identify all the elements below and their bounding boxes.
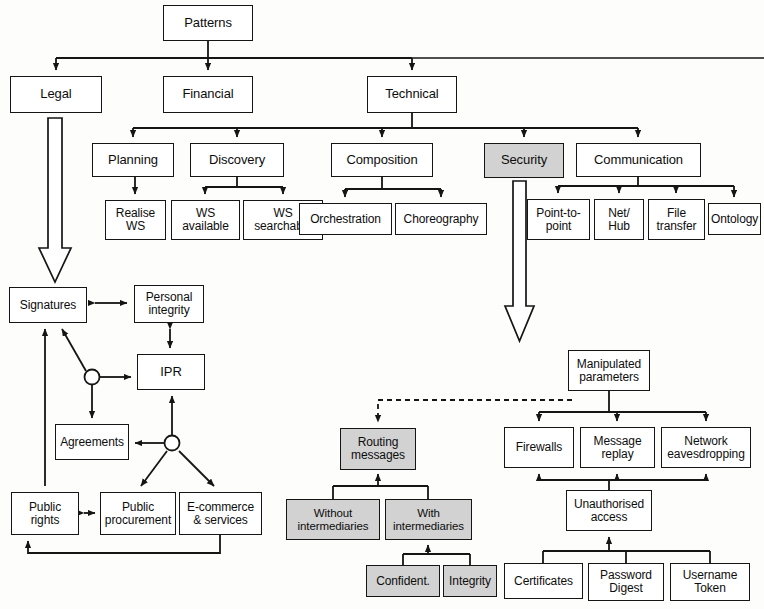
node-label-integrity: Integrity bbox=[446, 575, 494, 588]
node-label-file-transfer: Filetransfer bbox=[651, 207, 702, 233]
node-label-message-replay: Messagereplay bbox=[583, 435, 652, 461]
node-message-replay[interactable]: Messagereplay bbox=[580, 427, 655, 468]
node-point-to-point[interactable]: Point-to-point bbox=[527, 199, 590, 240]
node-orchestration[interactable]: Orchestration bbox=[299, 203, 392, 235]
node-composition[interactable]: Composition bbox=[331, 143, 433, 177]
node-label-ipr: IPR bbox=[140, 365, 202, 379]
node-label-certificates: Certificates bbox=[507, 575, 580, 588]
edge-j2-ecommerce bbox=[179, 451, 214, 486]
node-label-personal-integrity: Personalintegrity bbox=[137, 291, 201, 317]
node-agreements[interactable]: Agreements bbox=[55, 424, 129, 460]
node-label-legal: Legal bbox=[13, 87, 99, 101]
block-arrow-legal bbox=[39, 118, 71, 282]
node-label-composition: Composition bbox=[334, 153, 430, 167]
diagram-canvas: PatternsLegalFinancialTechnicalPlanningD… bbox=[0, 0, 764, 609]
node-firewalls[interactable]: Firewalls bbox=[504, 427, 574, 468]
node-label-confidentiality: Confident. bbox=[369, 575, 437, 588]
node-confidentiality[interactable]: Confident. bbox=[366, 565, 440, 597]
node-label-communication: Communication bbox=[579, 153, 698, 167]
node-label-choreography: Choreography bbox=[398, 213, 484, 226]
node-financial[interactable]: Financial bbox=[163, 76, 253, 113]
node-personal-integrity[interactable]: Personalintegrity bbox=[134, 285, 204, 323]
node-label-signatures: Signatures bbox=[12, 299, 84, 312]
node-network-eavesdropping[interactable]: Networkeavesdropping bbox=[661, 427, 751, 468]
node-ontology[interactable]: Ontology bbox=[708, 203, 761, 235]
node-label-unauthorised-access: Unauthorisedaccess bbox=[569, 498, 649, 524]
node-routing-messages[interactable]: Routingmessages bbox=[340, 428, 416, 470]
node-planning[interactable]: Planning bbox=[92, 143, 174, 177]
node-label-discovery: Discovery bbox=[193, 153, 281, 167]
node-net-hub[interactable]: Net/Hub bbox=[594, 199, 644, 240]
node-with-intermediaries[interactable]: Withintermediaries bbox=[385, 499, 472, 540]
node-label-patterns: Patterns bbox=[166, 16, 250, 30]
node-label-planning: Planning bbox=[95, 153, 171, 167]
node-label-technical: Technical bbox=[370, 87, 454, 101]
node-label-financial: Financial bbox=[166, 87, 250, 101]
node-label-ontology: Ontology bbox=[711, 213, 758, 226]
node-security[interactable]: Security bbox=[484, 143, 564, 178]
node-technical[interactable]: Technical bbox=[367, 76, 457, 113]
node-discovery[interactable]: Discovery bbox=[190, 143, 284, 177]
node-label-ws-available: WSavailable bbox=[174, 207, 237, 233]
edge-j2-procurement bbox=[141, 451, 167, 486]
node-password-digest[interactable]: PasswordDigest bbox=[588, 563, 664, 601]
node-ecommerce-services[interactable]: E-commerce& services bbox=[179, 492, 262, 535]
node-certificates[interactable]: Certificates bbox=[504, 563, 583, 599]
node-label-network-eavesdropping: Networkeavesdropping bbox=[664, 435, 748, 461]
node-label-ecommerce-services: E-commerce& services bbox=[182, 501, 259, 527]
node-file-transfer[interactable]: Filetransfer bbox=[648, 199, 705, 240]
node-manipulated-parameters[interactable]: Manipulatedparameters bbox=[568, 350, 650, 391]
node-label-without-intermediaries: Withoutintermediaries bbox=[289, 507, 377, 532]
node-username-token[interactable]: UsernameToken bbox=[670, 563, 750, 601]
node-realise-ws[interactable]: RealiseWS bbox=[105, 200, 166, 240]
node-public-procurement[interactable]: Publicprocurement bbox=[100, 492, 176, 535]
node-label-orchestration: Orchestration bbox=[302, 213, 389, 226]
node-legal[interactable]: Legal bbox=[10, 76, 102, 113]
node-label-routing-messages: Routingmessages bbox=[343, 436, 413, 462]
node-signatures[interactable]: Signatures bbox=[9, 287, 87, 323]
node-ipr[interactable]: IPR bbox=[137, 354, 205, 390]
node-without-intermediaries[interactable]: Withoutintermediaries bbox=[286, 499, 380, 540]
node-unauthorised-access[interactable]: Unauthorisedaccess bbox=[566, 490, 652, 531]
node-label-username-token: UsernameToken bbox=[673, 569, 747, 595]
node-label-realise-ws: RealiseWS bbox=[108, 207, 163, 233]
node-communication[interactable]: Communication bbox=[576, 143, 701, 177]
edge-ecommerce-return bbox=[28, 535, 220, 553]
node-label-security: Security bbox=[487, 153, 561, 167]
node-label-with-intermediaries: Withintermediaries bbox=[388, 507, 469, 532]
edge-manipulated-routing-dashed bbox=[378, 400, 572, 422]
node-label-firewalls: Firewalls bbox=[507, 441, 571, 454]
node-ws-available[interactable]: WSavailable bbox=[171, 200, 240, 240]
node-patterns[interactable]: Patterns bbox=[163, 5, 253, 41]
junction-node-1 bbox=[85, 370, 100, 385]
node-integrity[interactable]: Integrity bbox=[443, 565, 497, 597]
node-label-manipulated-parameters: Manipulatedparameters bbox=[571, 358, 647, 384]
junction-node-2 bbox=[165, 436, 180, 451]
node-label-public-rights: Publicrights bbox=[14, 501, 76, 527]
edge-j1-signatures bbox=[62, 329, 86, 371]
node-label-password-digest: PasswordDigest bbox=[591, 569, 661, 595]
node-public-rights[interactable]: Publicrights bbox=[11, 492, 79, 535]
node-choreography[interactable]: Choreography bbox=[395, 203, 487, 235]
node-label-net-hub: Net/Hub bbox=[597, 207, 641, 233]
node-label-point-to-point: Point-to-point bbox=[530, 207, 587, 233]
node-label-public-procurement: Publicprocurement bbox=[103, 501, 173, 527]
node-label-agreements: Agreements bbox=[58, 436, 126, 449]
